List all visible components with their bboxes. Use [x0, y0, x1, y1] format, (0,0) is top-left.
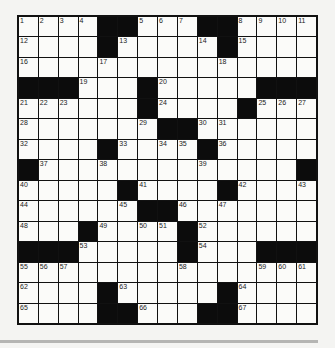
- grid-cell[interactable]: 17: [98, 58, 117, 77]
- grid-cell[interactable]: [257, 37, 276, 56]
- grid-cell[interactable]: [297, 140, 316, 159]
- grid-cell[interactable]: [218, 78, 237, 97]
- grid-cell[interactable]: 18: [218, 58, 237, 77]
- grid-cell[interactable]: [297, 283, 316, 302]
- grid-cell[interactable]: [138, 160, 157, 179]
- grid-cell[interactable]: 16: [19, 58, 38, 77]
- grid-cell[interactable]: 66: [138, 304, 157, 323]
- grid-cell[interactable]: 29: [138, 119, 157, 138]
- grid-cell[interactable]: [277, 37, 296, 56]
- grid-cell[interactable]: [79, 304, 98, 323]
- grid-cell[interactable]: [198, 78, 217, 97]
- grid-cell[interactable]: [178, 181, 197, 200]
- grid-cell[interactable]: 54: [198, 242, 217, 261]
- grid-cell[interactable]: [257, 58, 276, 77]
- grid-cell[interactable]: [178, 283, 197, 302]
- grid-cell[interactable]: [59, 58, 78, 77]
- grid-cell[interactable]: 2: [39, 17, 58, 36]
- grid-cell[interactable]: [218, 222, 237, 241]
- grid-cell[interactable]: [98, 181, 117, 200]
- grid-cell[interactable]: [238, 78, 257, 97]
- grid-cell[interactable]: [277, 181, 296, 200]
- grid-cell[interactable]: 31: [218, 119, 237, 138]
- grid-cell[interactable]: 65: [19, 304, 38, 323]
- grid-cell[interactable]: [158, 181, 177, 200]
- grid-cell[interactable]: 15: [238, 37, 257, 56]
- grid-cell[interactable]: [138, 263, 157, 282]
- grid-cell[interactable]: [138, 58, 157, 77]
- grid-cell[interactable]: 36: [218, 140, 237, 159]
- grid-cell[interactable]: 49: [98, 222, 117, 241]
- grid-cell[interactable]: 7: [178, 17, 197, 36]
- grid-cell[interactable]: [79, 37, 98, 56]
- grid-cell[interactable]: 42: [238, 181, 257, 200]
- grid-cell[interactable]: 46: [178, 201, 197, 220]
- grid-cell[interactable]: [59, 201, 78, 220]
- grid-cell[interactable]: [59, 304, 78, 323]
- grid-cell[interactable]: 39: [198, 160, 217, 179]
- grid-cell[interactable]: [277, 283, 296, 302]
- grid-cell[interactable]: [98, 263, 117, 282]
- grid-cell[interactable]: 6: [158, 17, 177, 36]
- grid-cell[interactable]: [59, 140, 78, 159]
- grid-cell[interactable]: [39, 58, 58, 77]
- grid-cell[interactable]: [257, 119, 276, 138]
- grid-cell[interactable]: [238, 263, 257, 282]
- grid-cell[interactable]: 62: [19, 283, 38, 302]
- grid-cell[interactable]: [297, 119, 316, 138]
- grid-cell[interactable]: [277, 119, 296, 138]
- grid-cell[interactable]: [257, 160, 276, 179]
- grid-cell[interactable]: 30: [198, 119, 217, 138]
- grid-cell[interactable]: [59, 283, 78, 302]
- grid-cell[interactable]: 13: [118, 37, 137, 56]
- grid-cell[interactable]: [79, 99, 98, 118]
- grid-cell[interactable]: 51: [158, 222, 177, 241]
- grid-cell[interactable]: [98, 242, 117, 261]
- grid-cell[interactable]: 57: [59, 263, 78, 282]
- grid-cell[interactable]: 9: [257, 17, 276, 36]
- grid-cell[interactable]: [39, 37, 58, 56]
- grid-cell[interactable]: [218, 242, 237, 261]
- grid-cell[interactable]: [297, 222, 316, 241]
- grid-cell[interactable]: [39, 201, 58, 220]
- grid-cell[interactable]: [277, 222, 296, 241]
- grid-cell[interactable]: 20: [158, 78, 177, 97]
- grid-cell[interactable]: [178, 304, 197, 323]
- grid-cell[interactable]: [198, 283, 217, 302]
- grid-cell[interactable]: [277, 201, 296, 220]
- grid-cell[interactable]: 8: [238, 17, 257, 36]
- grid-cell[interactable]: [238, 222, 257, 241]
- grid-cell[interactable]: 1: [19, 17, 38, 36]
- grid-cell[interactable]: [138, 37, 157, 56]
- grid-cell[interactable]: 25: [257, 99, 276, 118]
- grid-cell[interactable]: [39, 304, 58, 323]
- grid-cell[interactable]: [297, 201, 316, 220]
- grid-cell[interactable]: 43: [297, 181, 316, 200]
- grid-cell[interactable]: [178, 37, 197, 56]
- grid-cell[interactable]: [79, 181, 98, 200]
- grid-cell[interactable]: [59, 160, 78, 179]
- grid-cell[interactable]: 23: [59, 99, 78, 118]
- grid-cell[interactable]: [79, 140, 98, 159]
- grid-cell[interactable]: 50: [138, 222, 157, 241]
- grid-cell[interactable]: [118, 58, 137, 77]
- grid-cell[interactable]: 21: [19, 99, 38, 118]
- grid-cell[interactable]: [39, 140, 58, 159]
- grid-cell[interactable]: [218, 160, 237, 179]
- grid-cell[interactable]: 22: [39, 99, 58, 118]
- grid-cell[interactable]: [257, 181, 276, 200]
- grid-cell[interactable]: 55: [19, 263, 38, 282]
- grid-cell[interactable]: 14: [198, 37, 217, 56]
- grid-cell[interactable]: [297, 58, 316, 77]
- grid-cell[interactable]: [79, 58, 98, 77]
- grid-cell[interactable]: [98, 201, 117, 220]
- grid-cell[interactable]: [198, 181, 217, 200]
- grid-cell[interactable]: [158, 283, 177, 302]
- grid-cell[interactable]: [238, 160, 257, 179]
- grid-cell[interactable]: [118, 242, 137, 261]
- grid-cell[interactable]: [178, 99, 197, 118]
- grid-cell[interactable]: [238, 119, 257, 138]
- grid-cell[interactable]: 52: [198, 222, 217, 241]
- grid-cell[interactable]: [158, 304, 177, 323]
- grid-cell[interactable]: [138, 283, 157, 302]
